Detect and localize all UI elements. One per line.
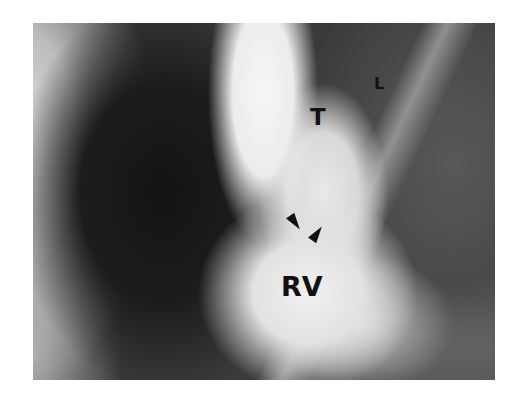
label-rv: RV: [281, 273, 323, 300]
label-l: L: [374, 76, 384, 92]
right-ventricle-region: [33, 23, 495, 380]
label-t: T: [310, 106, 326, 129]
angiogram-image: T L RV: [33, 23, 495, 380]
